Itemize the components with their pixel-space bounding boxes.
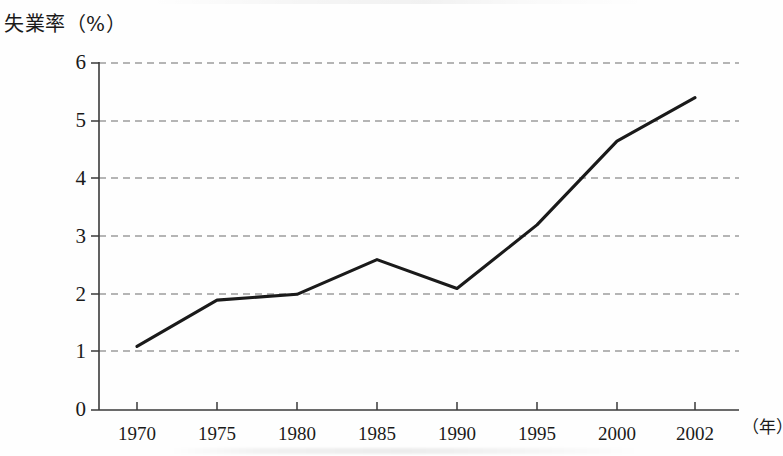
y-axis-ticks (91, 63, 99, 410)
line-chart (0, 0, 783, 456)
x-axis-ticks (137, 402, 695, 410)
data-series-line (137, 98, 695, 347)
gridlines (99, 63, 739, 351)
